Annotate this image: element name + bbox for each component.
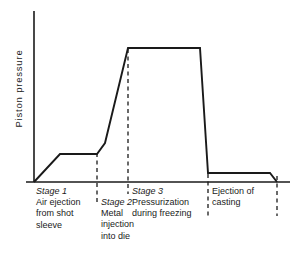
ejection-caption: Ejection of casting: [212, 186, 254, 208]
stage-2-line-2: injection: [101, 219, 134, 230]
stage-1-heading: Stage 1: [36, 186, 81, 197]
ejection-line-1: Ejection of: [212, 186, 254, 197]
ejection-line-2: casting: [212, 197, 254, 208]
stage-2-line-1: Metal: [101, 208, 134, 219]
stage-2-line-3: into die: [101, 231, 134, 242]
stage-1-line-3: sleeve: [36, 220, 81, 231]
stage-3-line-1: Pressurization: [132, 197, 192, 208]
stage-1-line-1: Air ejection: [36, 197, 81, 208]
stage-1-line-2: from shot: [36, 208, 81, 219]
pressure-profile-curve: [34, 48, 277, 182]
stage-3-caption: Stage 3 Pressurization during freezing: [132, 186, 192, 220]
stage-2-heading: Stage 2: [101, 197, 134, 208]
stage-3-line-2: during freezing: [132, 208, 192, 219]
stage-3-heading: Stage 3: [132, 186, 192, 197]
chart-figure: Piston pressure Stage 1 Air ejection fro…: [0, 0, 297, 256]
stage-1-caption: Stage 1 Air ejection from shot sleeve: [36, 186, 81, 231]
stage-2-caption: Stage 2 Metal injection into die: [101, 197, 134, 242]
y-axis-title: Piston pressure: [13, 24, 24, 154]
